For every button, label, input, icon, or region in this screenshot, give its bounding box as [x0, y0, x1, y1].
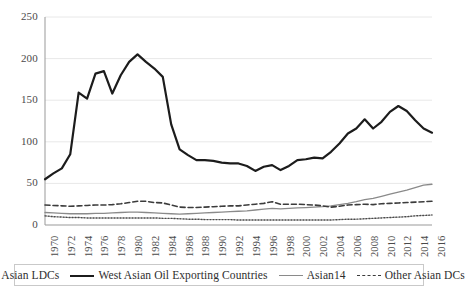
legend-line-swatch-icon	[279, 271, 303, 279]
legend-item[interactable]: Other Asian DCs	[357, 269, 465, 281]
y-tick-label: 250	[6, 10, 38, 22]
x-tick-label: 1984	[167, 236, 178, 257]
x-tick-label: 1996	[268, 236, 279, 257]
x-tick-label: 2000	[301, 236, 312, 257]
legend-item[interactable]: Asian14	[279, 269, 346, 281]
legend-item-label: Asian LDCs	[1, 269, 59, 281]
series-line-2	[45, 184, 432, 214]
x-tick-label: 2012	[402, 236, 413, 257]
legend-item-label: West Asian Oil Exporting Countries	[98, 269, 267, 281]
y-tick-label: 200	[6, 52, 38, 64]
series-line-1	[45, 54, 432, 179]
x-tick-label: 1988	[200, 236, 211, 257]
x-tick-label: 1970	[49, 236, 60, 257]
x-tick-label: 1986	[184, 236, 195, 257]
x-tick-label: 2014	[419, 236, 430, 257]
y-tick-label: 150	[6, 93, 38, 105]
x-tick-label: 2008	[369, 236, 380, 257]
x-tick-label: 1974	[83, 236, 94, 257]
x-tick-label: 1972	[66, 236, 77, 257]
y-tick-label: 50	[6, 176, 38, 188]
x-tick-label: 1992	[234, 236, 245, 257]
x-tick-label: 1978	[116, 236, 127, 257]
x-tick-label: 2006	[352, 236, 363, 257]
legend-item[interactable]: West Asian Oil Exporting Countries	[70, 269, 267, 281]
x-tick-label: 1994	[251, 236, 262, 257]
x-tick-label: 1990	[217, 236, 228, 257]
series-line-3	[45, 201, 432, 207]
x-tick-label: 2004	[335, 236, 346, 257]
legend-item-label: Other Asian DCs	[385, 269, 465, 281]
y-tick-label: 0	[6, 218, 38, 230]
chart-legend: Asian LDCsWest Asian Oil Exporting Count…	[14, 264, 424, 286]
series-line-0	[45, 215, 432, 220]
x-tick-label: 2002	[318, 236, 329, 257]
x-tick-label: 2010	[386, 236, 397, 257]
x-tick-label: 1982	[150, 236, 161, 257]
x-tick-label: 1998	[285, 236, 296, 257]
legend-line-swatch-icon	[357, 271, 381, 279]
legend-item-label: Asian14	[307, 269, 346, 281]
y-tick-label: 100	[6, 135, 38, 147]
legend-item[interactable]: Asian LDCs	[0, 269, 59, 281]
x-tick-label: 1980	[133, 236, 144, 257]
x-tick-label: 1976	[99, 236, 110, 257]
legend-line-swatch-icon	[70, 271, 94, 279]
x-tick-label: 2016	[436, 236, 447, 257]
